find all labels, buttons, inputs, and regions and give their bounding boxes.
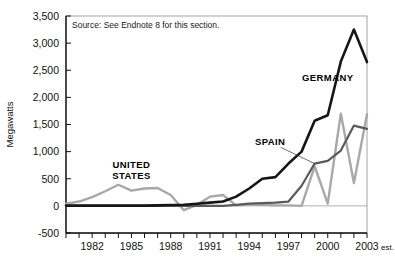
series-label-united-states: STATES	[112, 170, 150, 181]
x-tick-label: 1982	[80, 240, 104, 252]
y-tick-label: 2,500	[33, 64, 59, 76]
x-tick-label: 1994	[238, 240, 262, 252]
y-tick-label: 2,000	[33, 91, 59, 103]
series-label-leader-spain	[281, 147, 315, 163]
wind-capacity-line-chart: -50005001,0001,5002,0002,5003,0003,50019…	[0, 0, 395, 274]
y-tick-label: 3,000	[33, 37, 59, 49]
x-tick-label: 2003	[355, 240, 379, 252]
y-tick-label: 3,500	[33, 10, 59, 22]
series-label-germany: GERMANY	[302, 72, 354, 83]
series-label-spain: SPAIN	[255, 136, 285, 147]
x-tick-label: 1997	[277, 240, 301, 252]
y-axis-title: Megawatts	[4, 101, 15, 147]
x-tick-label: 1991	[198, 240, 222, 252]
chart-canvas: -50005001,0001,5002,0002,5003,0003,50019…	[0, 0, 395, 274]
y-tick-label: -500	[38, 227, 59, 239]
x-tick-label: 1985	[120, 240, 144, 252]
y-tick-label: 1,500	[33, 118, 59, 130]
plot-frame	[66, 16, 367, 233]
x-tick-label: 1988	[159, 240, 183, 252]
y-tick-label: 1,000	[33, 145, 59, 157]
series-line-spain	[66, 126, 367, 206]
x-tick-estimate-suffix: est.	[381, 243, 394, 252]
series-label-united-states: UNITED	[113, 159, 151, 170]
source-note: Source: See Endnote 8 for this section.	[72, 20, 219, 30]
series-line-germany	[66, 30, 367, 206]
y-tick-label: 500	[41, 173, 59, 185]
y-tick-label: 0	[53, 200, 59, 212]
x-tick-label: 2000	[316, 240, 340, 252]
